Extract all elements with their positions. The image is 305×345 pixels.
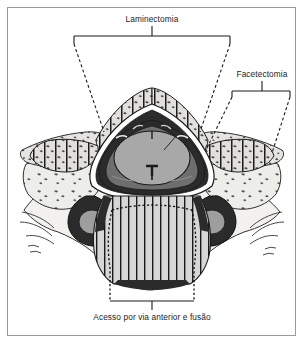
anterior-access-label: Acesso por via anterior e fusão — [93, 312, 211, 322]
facetectomy-leader-right — [272, 97, 290, 153]
laminectomy-leader-left — [74, 44, 104, 132]
corpo-vertebral — [93, 196, 210, 290]
facetectomy-label: Facetectomia — [236, 69, 287, 79]
anatomical-illustration: Laminectomia Facetectomia Acesso por via… — [0, 0, 305, 345]
figure-root: Laminectomia Facetectomia Acesso por via… — [0, 0, 305, 345]
medula-espinhal — [114, 131, 190, 185]
laminectomy-leader-right — [200, 44, 230, 132]
laminectomy-label: Laminectomia — [126, 14, 179, 24]
